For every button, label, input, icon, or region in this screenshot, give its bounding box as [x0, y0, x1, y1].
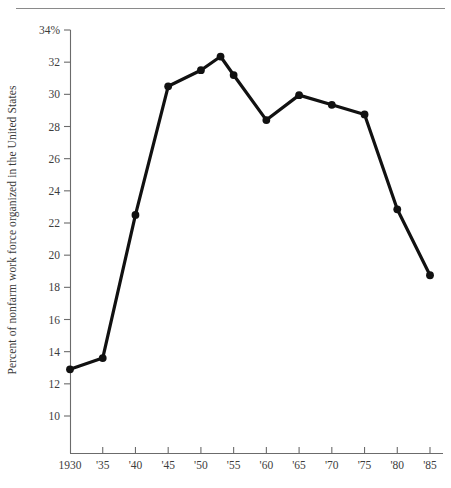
y-axis-tick-label: 28	[20, 121, 60, 133]
y-axis-tick-label: 10	[20, 410, 60, 422]
y-axis-tick-label: 18	[20, 281, 60, 293]
data-point-marker	[230, 71, 238, 79]
y-axis-tick-label: 20	[20, 249, 60, 261]
data-point-marker	[197, 66, 205, 74]
y-axis-tick-label: 30	[20, 88, 60, 100]
x-axis-tick-label: '70	[325, 459, 339, 471]
data-point-marker	[66, 365, 74, 373]
data-point-marker	[132, 211, 140, 219]
data-point-marker	[361, 111, 369, 119]
data-point-marker	[426, 271, 434, 279]
y-axis-tick-label: 12	[20, 378, 60, 390]
x-axis-tick-label: '75	[358, 459, 372, 471]
x-axis-tick-label: '60	[260, 459, 274, 471]
x-axis-tick-label: '40	[129, 459, 143, 471]
y-axis-tick-label: 32	[20, 56, 60, 68]
x-axis-tick-label: '35	[96, 459, 110, 471]
x-axis-tick-label: '55	[227, 459, 241, 471]
chart-figure: Percent of nonfarm work force organized …	[0, 0, 451, 488]
x-axis-tick-label: '50	[194, 459, 208, 471]
x-axis-tick-label: 1930	[59, 459, 82, 471]
y-axis-tick-label: 26	[20, 153, 60, 165]
y-axis-tick-label: 14	[20, 346, 60, 358]
x-axis-tick-label: '80	[390, 459, 404, 471]
y-axis-tick-label: 24	[20, 185, 60, 197]
x-axis-ticks	[103, 447, 430, 454]
x-axis-tick-label: '85	[423, 459, 437, 471]
data-point-marker	[393, 205, 401, 213]
data-point-marker	[164, 82, 172, 90]
y-axis-tick-label: 34%	[20, 24, 60, 36]
data-series-line	[70, 57, 430, 370]
data-point-marker	[99, 354, 107, 362]
x-axis-tick-label: '65	[292, 459, 306, 471]
y-axis-tick-label: 16	[20, 314, 60, 326]
y-axis-tick-label: 22	[20, 217, 60, 229]
data-point-marker	[295, 91, 303, 99]
data-point-marker	[217, 53, 225, 61]
y-axis-ticks	[64, 30, 71, 416]
data-point-markers	[66, 53, 434, 374]
data-point-marker	[262, 116, 270, 124]
axis-lines	[70, 30, 443, 454]
data-point-marker	[328, 101, 336, 109]
line-chart-plot	[0, 0, 451, 488]
x-axis-tick-label: '45	[161, 459, 175, 471]
